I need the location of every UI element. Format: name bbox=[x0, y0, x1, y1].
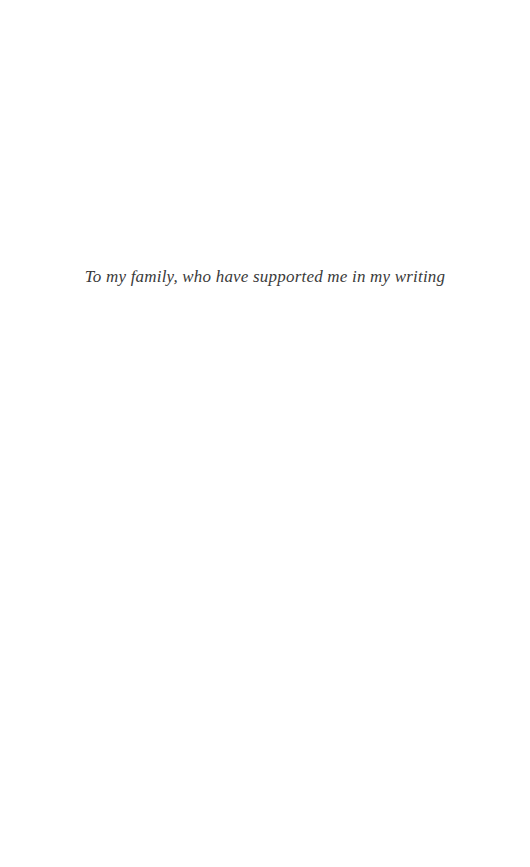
dedication-text: To my family, who have supported me in m… bbox=[0, 266, 530, 288]
dedication-page: To my family, who have supported me in m… bbox=[0, 0, 530, 867]
